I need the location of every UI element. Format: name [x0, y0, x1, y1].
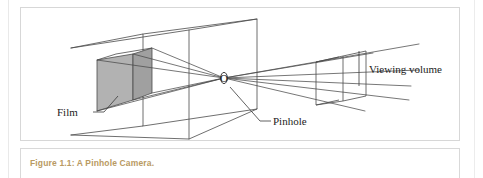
figure-caption: Figure 1.1: A Pinhole Camera.	[30, 158, 154, 168]
film-label: Film	[57, 106, 78, 118]
ray-out-top-near	[224, 53, 373, 78]
pinhole-marker-label: O	[220, 72, 228, 84]
viewing-volume-label: Viewing volume	[369, 63, 442, 75]
pinhole-camera-diagram: O Film Pinhole Viewing volume	[21, 8, 461, 142]
box-back-face	[143, 19, 257, 126]
film-slab	[97, 48, 152, 111]
page-edge-right	[474, 0, 475, 178]
figure-frame: O Film Pinhole Viewing volume	[20, 7, 460, 141]
ray-film-top-right	[152, 48, 224, 78]
caption-frame: Figure 1.1: A Pinhole Camera.	[20, 148, 460, 178]
figure-page: O Film Pinhole Viewing volume Figure 1.1…	[0, 0, 483, 178]
viewing-volume-frustum	[316, 51, 366, 105]
box-top-edges	[71, 19, 257, 48]
frustum-near-face	[316, 56, 343, 105]
ray-out-bottom-far	[224, 78, 409, 100]
page-edge-left	[8, 0, 9, 178]
pinhole-label: Pinhole	[273, 115, 307, 127]
pinhole-leader-line	[230, 87, 271, 121]
film-side-face	[133, 48, 152, 100]
